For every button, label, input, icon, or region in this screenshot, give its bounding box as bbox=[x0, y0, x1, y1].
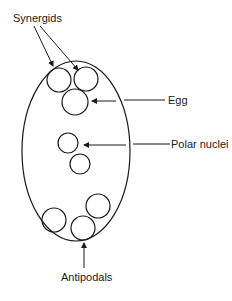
synergid-cell-left bbox=[47, 68, 71, 92]
synergid-cell-right bbox=[74, 67, 98, 91]
antipodal-cell-middle bbox=[71, 216, 95, 240]
embryo-sac-diagram: Synergids Egg Polar nuclei Antipodals bbox=[0, 0, 232, 301]
antipodal-cell-left bbox=[42, 208, 66, 232]
synergids-label: Synergids bbox=[13, 13, 62, 24]
polar-nuclei-label: Polar nuclei bbox=[171, 139, 228, 150]
synergids-arrow-right bbox=[40, 26, 78, 70]
egg-label: Egg bbox=[168, 95, 188, 106]
polar-nucleus-upper bbox=[58, 133, 78, 153]
embryo-sac-outline bbox=[22, 61, 130, 241]
synergids-arrow-left bbox=[34, 26, 53, 66]
antipodal-cell-right bbox=[86, 194, 110, 218]
antipodals-label: Antipodals bbox=[61, 272, 112, 283]
polar-nucleus-lower bbox=[70, 154, 90, 174]
embryo-sac-figure bbox=[0, 0, 232, 301]
egg-cell bbox=[62, 89, 88, 115]
